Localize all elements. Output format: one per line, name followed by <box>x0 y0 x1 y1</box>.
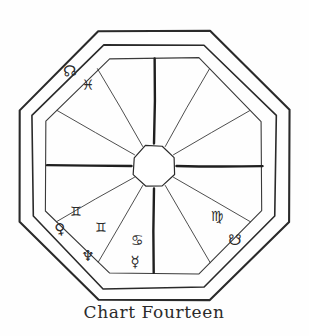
astrology-chart-figure: ☊♓♊♀♊♆♋☿♍☋ Chart Fourteen <box>0 0 309 336</box>
house-cusp-line <box>57 111 134 155</box>
venus-glyph: ♀ <box>53 219 68 239</box>
house-cusp-line <box>97 69 142 147</box>
south-node-glyph: ☋ <box>228 231 241 249</box>
house-cusp-line <box>165 69 209 146</box>
north-node-glyph: ☊ <box>62 61 78 81</box>
pisces-glyph: ♓ <box>82 77 95 93</box>
center-octagon <box>133 145 174 186</box>
house-cusp-line <box>57 177 135 221</box>
house-cusp-line <box>153 189 154 273</box>
cancer-glyph: ♋ <box>131 232 144 248</box>
house-cusp-line <box>165 185 210 262</box>
house-cusp-line <box>47 165 131 166</box>
chart-caption: Chart Fourteen <box>84 302 225 322</box>
chart-drawing: ☊♓♊♀♊♆♋☿♍☋ Chart Fourteen <box>0 0 309 336</box>
house-cusp-line <box>173 111 249 155</box>
house-cusp-line <box>177 166 263 167</box>
house-cusp-line <box>154 59 155 144</box>
gemini-upper-glyph: ♊ <box>70 204 82 219</box>
mercury-glyph: ☿ <box>130 253 139 271</box>
virgo-glyph: ♍ <box>211 208 224 224</box>
gemini-lower-glyph: ♊ <box>95 220 107 235</box>
neptune-glyph: ♆ <box>81 247 94 265</box>
